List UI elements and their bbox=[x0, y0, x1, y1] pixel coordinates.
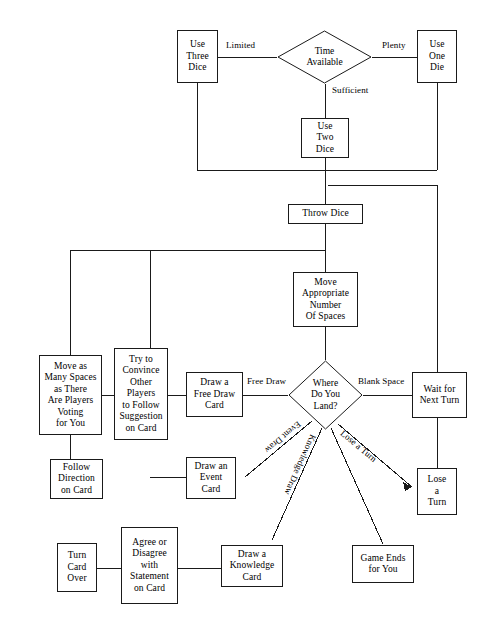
node-use-three-dice[interactable]: Use Three Dice bbox=[177, 30, 218, 83]
edge-label-lose-a-turn: Lose a Turn bbox=[339, 428, 379, 464]
edge-label-limited: Limited bbox=[224, 40, 257, 50]
decision-where-do-you-land-label: Where Do You Land? bbox=[311, 378, 340, 413]
node-move-as-many-spaces[interactable]: Move as Many Spaces as There Are Players… bbox=[39, 355, 102, 435]
edge-label-free-draw: Free Draw bbox=[245, 376, 288, 386]
node-use-two-dice[interactable]: Use Two Dice bbox=[301, 118, 349, 158]
node-use-one-die[interactable]: Use One Die bbox=[417, 30, 457, 83]
node-throw-dice[interactable]: Throw Dice bbox=[288, 204, 363, 224]
node-lose-a-turn[interactable]: Lose a Turn bbox=[417, 468, 457, 515]
decision-where-do-you-land[interactable]: Where Do You Land? bbox=[288, 360, 363, 430]
node-agree-or-disagree-with-statement[interactable]: Agree or Disagree with Statement on Card bbox=[121, 527, 178, 604]
node-draw-a-knowledge-card[interactable]: Draw a Knowledge Card bbox=[221, 545, 283, 587]
decision-time-available-label: Time Available bbox=[306, 46, 342, 69]
edge-label-plenty: Plenty bbox=[380, 40, 408, 50]
node-wait-for-next-turn[interactable]: Wait for Next Turn bbox=[412, 372, 467, 418]
flowchart-canvas: Time Available Where Do You Land? Use Th… bbox=[0, 0, 483, 625]
decision-time-available[interactable]: Time Available bbox=[277, 30, 372, 84]
edge-label-sufficient: Sufficient bbox=[330, 85, 370, 95]
node-draw-a-free-draw-card[interactable]: Draw a Free Draw Card bbox=[186, 372, 243, 417]
node-move-appropriate-number-of-spaces[interactable]: Move Appropriate Number Of Spaces bbox=[293, 272, 358, 327]
edge-label-knowledge-draw: Knowledge Draw bbox=[282, 433, 318, 497]
node-draw-an-event-card[interactable]: Draw an Event Card bbox=[186, 457, 236, 499]
node-game-ends-for-you[interactable]: Game Ends for You bbox=[352, 545, 414, 583]
edge-label-blank-space: Blank Space bbox=[356, 376, 406, 386]
edge-label-event-draw: Event Draw bbox=[263, 419, 303, 455]
connector-lines bbox=[0, 0, 483, 625]
node-try-to-convince-other-players[interactable]: Try to Convince Other Players to Follow … bbox=[114, 348, 168, 440]
node-turn-card-over[interactable]: Turn Card Over bbox=[57, 543, 97, 592]
node-follow-direction-on-card[interactable]: Follow Direction on Card bbox=[50, 459, 103, 499]
